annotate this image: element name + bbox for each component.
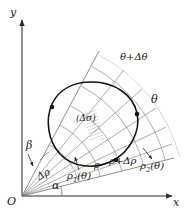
y-axis-label: y	[10, 7, 16, 18]
angle-arc-alpha	[61, 186, 62, 196]
theta-label: θ	[151, 94, 158, 105]
leader-beta	[28, 154, 33, 166]
origin-label: O	[7, 196, 16, 207]
rho1-argument: (θ)	[77, 170, 91, 181]
beta-label: β	[26, 140, 32, 151]
theta-plus-delta-theta-label: θ+Δθ	[120, 52, 148, 62]
rho1-label: ρ1(θ)	[67, 171, 91, 184]
area-element-label: (Δσ)	[76, 114, 96, 123]
diagram-canvas	[0, 0, 187, 214]
alpha-label: α	[52, 180, 59, 191]
polar-diagram-figure: y x O θ+Δθ θ β α Δρ ρ ρ+Δρ (Δσ) ρ1(θ) ρ2…	[0, 0, 187, 214]
rho-plus-delta-rho-label: ρ+Δρ	[109, 156, 136, 166]
marked-point-outer	[135, 112, 140, 117]
rho2-argument: (θ)	[150, 160, 164, 171]
x-axis-label: x	[173, 197, 179, 208]
rho2-label: ρ2(θ)	[140, 161, 164, 174]
marked-point-beta-side	[50, 105, 55, 110]
rho-label: ρ	[94, 160, 100, 170]
mesh-arc-outer	[99, 54, 180, 156]
